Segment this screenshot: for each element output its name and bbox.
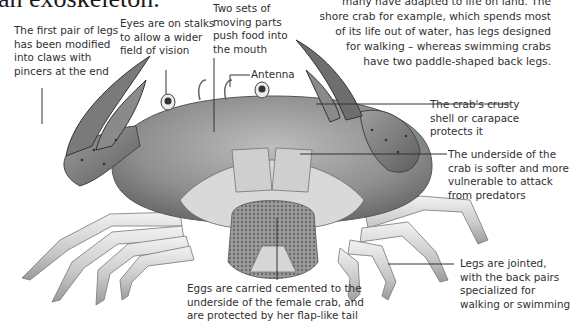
annotation-line: The first pair of legs	[14, 24, 118, 38]
annotation-line: are protected by her flap-like tail	[187, 309, 364, 323]
annotation-line: pincers at the end	[14, 65, 118, 79]
annotation-line: The underside of the	[448, 148, 569, 162]
annotation-carapace: The crab's crusty shell or carapace prot…	[430, 98, 519, 139]
annotation-line: protects it	[430, 125, 519, 139]
annotation-eggs: Eggs are carried cemented to the undersi…	[187, 282, 364, 323]
annotation-eyes: Eyes are on stalks to allow a wider fiel…	[120, 17, 214, 58]
annotation-line: crab is softer and more	[448, 162, 569, 176]
annotation-line: into claws with	[14, 51, 118, 65]
annotation-line: Eggs are carried cemented to the	[187, 282, 364, 296]
annotation-line: moving parts	[213, 16, 288, 30]
annotation-line: Antenna	[251, 68, 295, 82]
annotation-line: The crab's crusty	[430, 98, 519, 112]
annotation-line: has been modified	[14, 38, 118, 52]
annotation-line: specialized for	[460, 284, 570, 298]
annotation-line: vulnerable to attack	[448, 175, 569, 189]
annotation-antenna: Antenna	[251, 68, 295, 82]
annotation-claws: The first pair of legs has been modified…	[14, 24, 118, 78]
annotation-line: Eyes are on stalks	[120, 17, 214, 31]
annotation-line: underside of the female crab, and	[187, 296, 364, 310]
annotation-mouthparts: Two sets of moving parts push food into …	[213, 2, 288, 56]
left-legs	[22, 212, 194, 305]
annotation-line: field of vision	[120, 44, 214, 58]
annotation-line: shell or carapace	[430, 112, 519, 126]
annotation-line: with the back pairs	[460, 271, 570, 285]
annotation-underside: The underside of the crab is softer and …	[448, 148, 569, 202]
annotation-line: the mouth	[213, 43, 288, 57]
annotation-line: walking or swimming	[460, 298, 570, 312]
annotation-line: push food into	[213, 29, 288, 43]
annotation-line: from predators	[448, 189, 569, 203]
annotation-legs: Legs are jointed, with the back pairs sp…	[460, 257, 570, 311]
annotation-line: Legs are jointed,	[460, 257, 570, 271]
annotation-line: to allow a wider	[120, 31, 214, 45]
annotation-line: Two sets of	[213, 2, 288, 16]
